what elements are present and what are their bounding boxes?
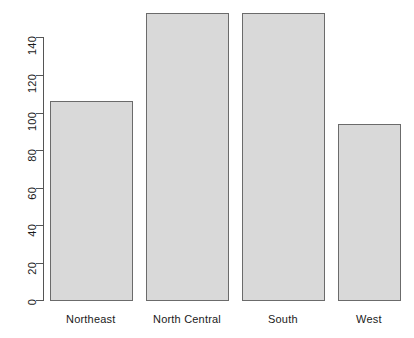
- plot-area: 020406080100120140 NortheastNorth Centra…: [0, 0, 414, 338]
- bar-south: [242, 13, 325, 301]
- bar-north-central: [146, 13, 229, 301]
- barplot-figure: 020406080100120140 NortheastNorth Centra…: [0, 0, 414, 338]
- bar-northeast: [50, 101, 133, 301]
- y-axis-tick-label-wrap: 40: [0, 225, 32, 226]
- y-axis-tick-label: 40: [26, 224, 38, 237]
- x-axis-label-north-central: North Central: [153, 313, 221, 325]
- x-axis-label-northeast: Northeast: [66, 313, 116, 325]
- y-axis-tick-label-wrap: 20: [0, 263, 32, 264]
- x-axis-label-west: West: [356, 313, 382, 325]
- y-axis-tick-label-wrap: 60: [0, 188, 32, 189]
- y-axis-tick-label: 140: [26, 36, 38, 55]
- y-axis-tick-label: 60: [26, 187, 38, 200]
- y-axis-tick-label: 100: [26, 112, 38, 131]
- y-axis-tick-label: 0: [26, 299, 38, 305]
- y-axis-line: [43, 37, 44, 301]
- y-axis-tick-label-wrap: 120: [0, 75, 32, 76]
- x-axis-label-south: South: [268, 313, 298, 325]
- y-axis-tick-label-wrap: 100: [0, 113, 32, 114]
- bar-west: [338, 124, 401, 301]
- y-axis-tick-label-wrap: 0: [0, 300, 32, 301]
- y-axis-tick-label-wrap: 80: [0, 150, 32, 151]
- y-axis-tick-label: 120: [26, 74, 38, 93]
- y-axis-tick-label: 20: [26, 262, 38, 275]
- y-axis-tick-label: 80: [26, 149, 38, 162]
- y-axis-tick-label-wrap: 140: [0, 37, 32, 38]
